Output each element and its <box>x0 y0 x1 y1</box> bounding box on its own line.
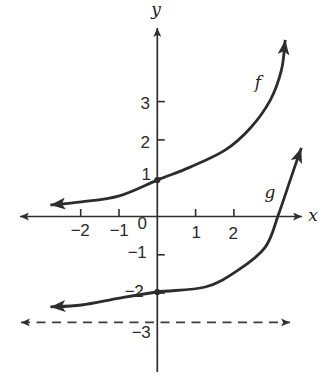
y-axis-label: y <box>151 1 161 18</box>
x-tick-label-neg1: −1 <box>110 222 128 239</box>
x-tick-label-neg2: −2 <box>71 222 89 239</box>
x-axis-label: x <box>308 207 318 224</box>
y-tick-label-neg3: −3 <box>132 324 150 341</box>
y-tick-label-neg1: −1 <box>128 244 146 261</box>
y-tick-label-neg2: −2 <box>125 283 143 300</box>
x-tick-label-1: 1 <box>192 224 201 241</box>
x-tick-label-zero: 0 <box>138 215 147 232</box>
x-tick-label-2: 2 <box>229 225 238 242</box>
y-tick-label-1: 1 <box>142 166 151 183</box>
curve-g-label: g <box>265 184 276 201</box>
curve-f-label: f <box>255 74 261 91</box>
y-tick-label-3: 3 <box>141 95 150 112</box>
graph-figure: ) y x f g −2 −1 0 1 2 3 2 1 −1 −2 −3 <box>0 0 323 377</box>
y-tick-label-2: 2 <box>141 134 150 151</box>
